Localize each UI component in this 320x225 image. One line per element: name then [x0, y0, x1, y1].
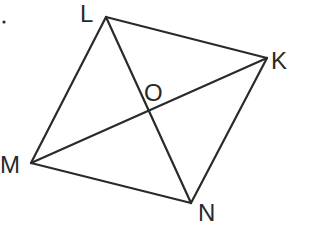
side-KN	[191, 58, 267, 203]
quadrilateral-diagram: L K M N O	[0, 0, 320, 225]
side-LK	[106, 17, 267, 58]
vertex-label-N: N	[198, 199, 215, 225]
side-ML	[31, 17, 106, 163]
vertex-label-M: M	[0, 151, 20, 178]
vertex-label-L: L	[80, 0, 93, 27]
side-NM	[31, 163, 191, 203]
stray-dot	[2, 20, 5, 23]
intersection-label-O: O	[144, 79, 163, 106]
vertex-label-K: K	[271, 47, 287, 74]
diagonal-MK	[31, 58, 267, 163]
